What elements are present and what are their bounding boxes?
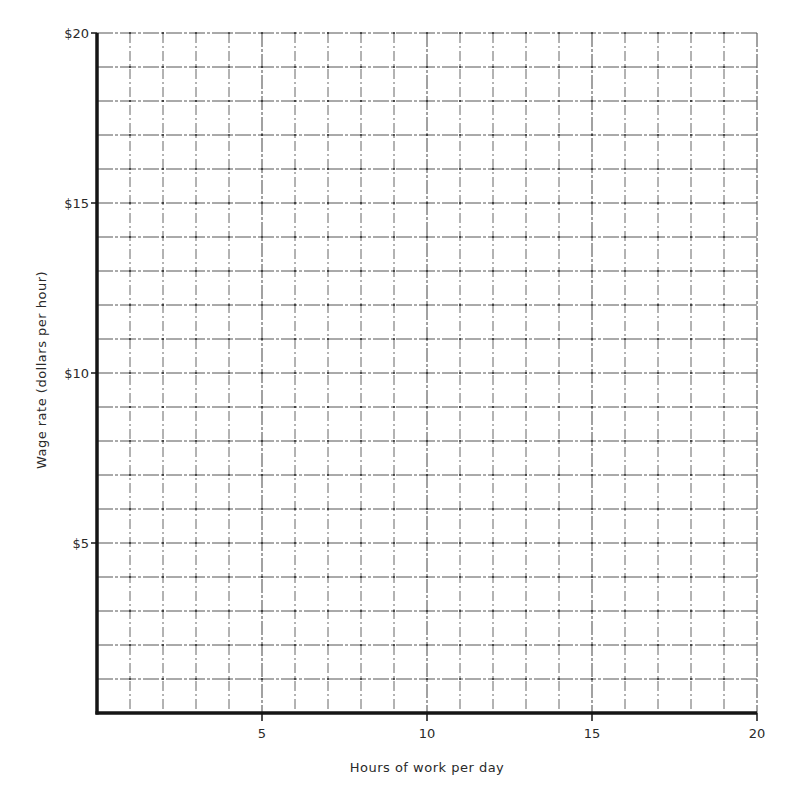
grid-intersection	[426, 372, 428, 374]
grid-intersection	[657, 372, 659, 374]
grid-intersection	[591, 372, 593, 374]
grid-intersection	[327, 542, 329, 544]
grid-intersection	[459, 304, 461, 306]
grid-intersection	[657, 100, 659, 102]
grid-intersection	[723, 576, 725, 578]
grid-intersection	[690, 678, 692, 680]
grid-intersection	[294, 576, 296, 578]
grid-intersection	[360, 338, 362, 340]
grid-intersection	[393, 236, 395, 238]
grid-intersection	[327, 202, 329, 204]
grid-intersection	[690, 474, 692, 476]
grid-intersection	[228, 440, 230, 442]
grid-intersection	[129, 542, 131, 544]
grid-intersection	[723, 32, 725, 34]
grid-intersection	[492, 406, 494, 408]
grid-intersection	[591, 576, 593, 578]
grid-intersection	[228, 236, 230, 238]
grid-intersection	[294, 440, 296, 442]
grid-intersection	[393, 678, 395, 680]
grid-intersection	[294, 678, 296, 680]
grid-intersection	[129, 100, 131, 102]
grid-intersection	[426, 678, 428, 680]
grid-intersection	[393, 202, 395, 204]
grid-intersection	[426, 610, 428, 612]
grid-intersection	[393, 542, 395, 544]
grid-intersection	[525, 576, 527, 578]
x-axis-title: Hours of work per day	[350, 760, 505, 775]
grid-intersection	[327, 678, 329, 680]
grid-intersection	[624, 372, 626, 374]
grid-intersection	[327, 610, 329, 612]
grid-intersection	[327, 406, 329, 408]
grid-intersection	[690, 610, 692, 612]
grid-intersection	[393, 610, 395, 612]
grid-intersection	[426, 236, 428, 238]
grid-intersection	[624, 678, 626, 680]
grid-intersection	[723, 66, 725, 68]
grid-intersection	[162, 100, 164, 102]
grid-intersection	[195, 644, 197, 646]
grid-intersection	[327, 236, 329, 238]
grid-intersection	[459, 338, 461, 340]
grid-intersection	[525, 440, 527, 442]
grid-intersection	[426, 66, 428, 68]
grid-intersection	[723, 610, 725, 612]
grid-intersection	[360, 304, 362, 306]
grid-intersection	[129, 474, 131, 476]
grid-intersection	[459, 406, 461, 408]
grid-intersection	[327, 338, 329, 340]
grid-intersection	[558, 32, 560, 34]
grid-intersection	[426, 338, 428, 340]
grid-intersection	[591, 678, 593, 680]
grid-intersection	[459, 32, 461, 34]
grid-intersection	[690, 338, 692, 340]
grid-intersection	[393, 644, 395, 646]
grid-intersection	[492, 202, 494, 204]
grid-intersection	[492, 338, 494, 340]
grid-intersection	[360, 134, 362, 136]
grid-intersection	[393, 372, 395, 374]
grid-intersection	[360, 372, 362, 374]
grid-intersection	[360, 270, 362, 272]
grid-intersection	[393, 270, 395, 272]
grid-intersection	[195, 610, 197, 612]
grid-intersection	[129, 236, 131, 238]
grid-intersection	[591, 236, 593, 238]
grid-intersection	[228, 168, 230, 170]
grid-intersection	[624, 610, 626, 612]
grid-intersection	[492, 610, 494, 612]
grid-intersection	[591, 474, 593, 476]
grid-intersection	[360, 100, 362, 102]
grid-intersection	[558, 678, 560, 680]
grid-intersection	[624, 270, 626, 272]
x-tick-label: 10	[419, 726, 436, 741]
grid-intersection	[261, 236, 263, 238]
grid-intersection	[294, 202, 296, 204]
grid-intersection	[723, 236, 725, 238]
grid-intersection	[723, 372, 725, 374]
grid-intersection	[129, 372, 131, 374]
grid-intersection	[723, 474, 725, 476]
grid-intersection	[294, 168, 296, 170]
grid-intersection	[492, 66, 494, 68]
grid-intersection	[228, 66, 230, 68]
grid-intersection	[294, 66, 296, 68]
grid-intersection	[459, 542, 461, 544]
grid-intersection	[360, 440, 362, 442]
grid-intersection	[525, 406, 527, 408]
grid-intersection	[657, 66, 659, 68]
grid-intersection	[657, 576, 659, 578]
grid-intersection	[657, 270, 659, 272]
grid-intersection	[261, 508, 263, 510]
grid-intersection	[591, 610, 593, 612]
grid-intersection	[360, 610, 362, 612]
grid-intersection	[228, 32, 230, 34]
grid-intersection	[459, 100, 461, 102]
grid-intersection	[558, 134, 560, 136]
grid-intersection	[261, 576, 263, 578]
grid-intersection	[525, 304, 527, 306]
grid-intersection	[558, 338, 560, 340]
grid-intersection	[624, 202, 626, 204]
grid-intersection	[393, 168, 395, 170]
